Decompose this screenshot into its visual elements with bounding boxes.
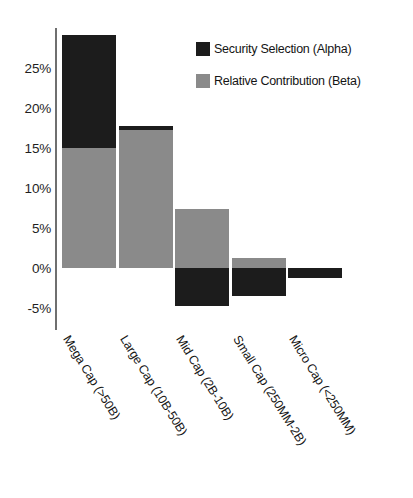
bar-segment-alpha[interactable] [119,126,173,130]
bar-segment-alpha[interactable] [62,35,116,148]
chart-legend: Security Selection (Alpha) Relative Cont… [196,42,406,106]
legend-swatch-beta [196,74,210,88]
y-axis-tick-labels: 25% 20% 15% 10% 5% 0% -5% [0,28,51,328]
bar-chart: 25% 20% 15% 10% 5% 0% -5% Security Selec… [0,0,413,498]
legend-swatch-alpha [196,42,210,56]
bar-segment-alpha[interactable] [232,268,286,296]
y-tick-label: -5% [7,301,51,316]
x-tick-label: Mid Cap (2B-10B) [173,333,236,423]
x-axis-tick-labels: Mega Cap (>50B) Large Cap (10B-50B) Mid … [0,333,413,498]
bar-segment-alpha[interactable] [288,268,342,278]
bar-segment-beta[interactable] [232,258,286,268]
bar-segment-beta[interactable] [62,148,116,268]
legend-item-alpha: Security Selection (Alpha) [196,42,406,56]
y-tick-label: 20% [7,101,51,116]
y-tick-label: 25% [7,61,51,76]
bar-segment-alpha[interactable] [175,268,229,306]
y-tick-label: 10% [7,181,51,196]
legend-label-alpha: Security Selection (Alpha) [214,42,351,56]
legend-label-beta: Relative Contribution (Beta) [214,74,361,88]
y-tick-label: 5% [7,221,51,236]
bar-group[interactable] [119,28,173,328]
bar-segment-beta[interactable] [119,130,173,268]
y-tick-label: 15% [7,141,51,156]
x-tick-label: Mega Cap (>50B) [60,333,123,422]
y-tick-label: 0% [7,261,51,276]
bar-segment-beta[interactable] [175,209,229,268]
bar-group[interactable] [62,28,116,328]
legend-item-beta: Relative Contribution (Beta) [196,74,406,88]
